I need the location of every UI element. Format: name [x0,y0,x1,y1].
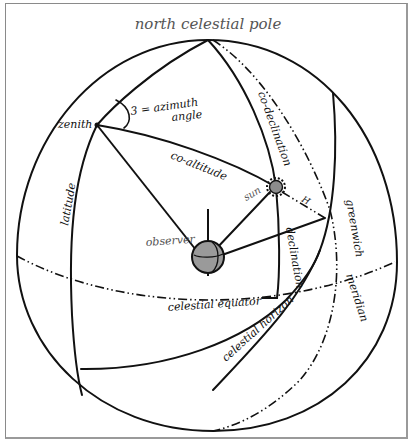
label-azimuth-line2: angle [171,108,203,124]
label-meridian: meridian [343,272,371,323]
observer-hour-line [222,218,325,255]
label-sun: sun [242,184,263,203]
celestial-sphere-diagram: north celestial pole [0,0,416,448]
label-celestial-equator: celestial equator [167,294,262,314]
observer-globe-icon [192,209,224,276]
zenith-point [95,123,100,128]
label-H: H [299,194,312,207]
label-observer: observer [145,233,196,249]
label-co-altitude: co-altitude [169,149,230,184]
zenith-meridian-line [71,40,208,395]
label-declination: declination [283,226,307,289]
sun-icon [267,178,285,196]
label-zenith: zenith [57,118,92,131]
title-north-celestial-pole: north celestial pole [135,15,282,33]
label-greenwich: greenwich [343,198,366,258]
zenith-observer-line [97,125,196,250]
